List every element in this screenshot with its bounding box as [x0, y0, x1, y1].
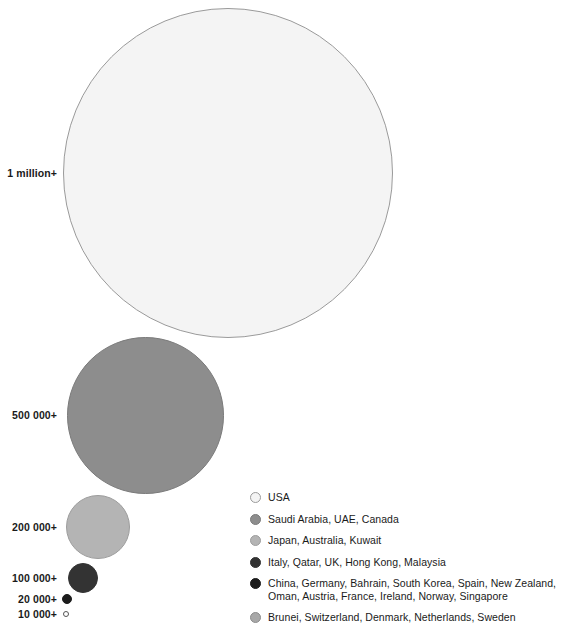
bubble-chart: 1 million+500 000+200 000+100 000+20 000…	[0, 0, 575, 631]
tier-label-200000: 200 000+	[12, 522, 57, 533]
legend-item: Brunei, Switzerland, Denmark, Netherland…	[250, 611, 572, 624]
legend-swatch-circle-icon	[250, 535, 261, 546]
bubble-tier-500000	[67, 337, 224, 494]
legend-swatch-circle-icon	[250, 612, 261, 623]
legend-item-label: USA	[268, 491, 290, 504]
legend-item: China, Germany, Bahrain, South Korea, Sp…	[250, 577, 572, 602]
legend-item-label: Saudi Arabia, UAE, Canada	[268, 513, 399, 526]
tier-label-1000000: 1 million+	[7, 168, 57, 179]
bubble-tier-1000000	[63, 8, 393, 338]
legend-item-label: Japan, Australia, Kuwait	[268, 534, 381, 547]
bubble-tier-100000	[68, 563, 98, 593]
legend-item-label: Brunei, Switzerland, Denmark, Netherland…	[268, 611, 516, 624]
legend-swatch-circle-icon	[250, 514, 261, 525]
legend-swatch-circle-icon	[250, 578, 261, 589]
legend-item-label: Italy, Qatar, UK, Hong Kong, Malaysia	[268, 556, 446, 569]
chart-legend: USASaudi Arabia, UAE, CanadaJapan, Austr…	[250, 491, 572, 631]
bubble-tier-10000	[63, 611, 69, 617]
tier-label-20000: 20 000+	[18, 594, 57, 605]
legend-item: Japan, Australia, Kuwait	[250, 534, 572, 547]
legend-item: USA	[250, 491, 572, 504]
bubble-tier-200000	[66, 495, 130, 559]
legend-item-label: China, Germany, Bahrain, South Korea, Sp…	[268, 577, 572, 602]
legend-item: Italy, Qatar, UK, Hong Kong, Malaysia	[250, 556, 572, 569]
legend-swatch-circle-icon	[250, 492, 261, 503]
tier-label-500000: 500 000+	[12, 410, 57, 421]
legend-swatch-circle-icon	[250, 557, 261, 568]
legend-item: Saudi Arabia, UAE, Canada	[250, 513, 572, 526]
tier-label-10000: 10 000+	[18, 609, 57, 620]
bubble-tier-20000	[62, 594, 72, 604]
tier-label-100000: 100 000+	[12, 573, 57, 584]
